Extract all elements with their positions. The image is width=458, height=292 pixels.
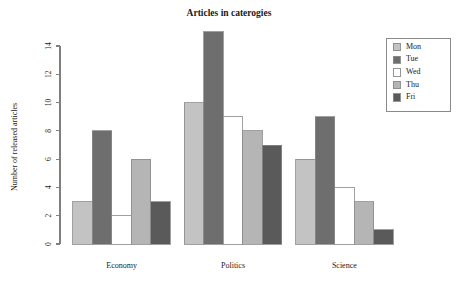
x-axis-label-science: Science	[332, 261, 357, 270]
y-axis-tick-label: 10	[44, 99, 53, 107]
x-axis-label-economy: Economy	[106, 261, 137, 270]
legend-swatch-thu	[393, 81, 400, 88]
bar-economy-tue	[92, 131, 112, 244]
legend-swatch-mon	[393, 43, 400, 50]
y-axis-tick-label: 2	[44, 214, 53, 218]
legend: MonTueWedThuFri	[386, 38, 450, 111]
y-axis-tick-label: 12	[44, 70, 53, 78]
bar-science-wed	[335, 187, 355, 244]
y-axis-tick-label: 6	[44, 157, 53, 161]
legend-label-mon: Mon	[406, 42, 421, 51]
y-axis-tick-label: 0	[44, 242, 53, 246]
chart-title: Articles in caterogies	[187, 8, 272, 18]
x-axis-category-labels: EconomyPoliticsScience	[106, 261, 357, 270]
x-axis-label-politics: Politics	[221, 261, 245, 270]
bar-economy-thu	[131, 159, 151, 244]
bars-layer	[73, 32, 393, 244]
bar-science-thu	[354, 202, 374, 244]
bar-politics-mon	[184, 103, 204, 244]
bar-science-tue	[315, 117, 335, 244]
y-axis-tick-label: 8	[44, 129, 53, 133]
y-axis-tick-label: 14	[44, 42, 53, 50]
chart-canvas: Articles in caterogies Number of release…	[0, 0, 458, 292]
legend-swatch-tue	[393, 56, 400, 63]
legend-label-tue: Tue	[406, 54, 419, 63]
legend-label-fri: Fri	[406, 92, 416, 101]
y-axis-tick-label: 4	[44, 185, 53, 189]
bar-chart-figure: Articles in caterogies Number of release…	[0, 0, 458, 292]
bar-science-fri	[374, 230, 394, 244]
bar-politics-thu	[243, 131, 263, 244]
bar-economy-mon	[73, 202, 93, 244]
y-axis: 02468101214	[44, 42, 60, 246]
bar-politics-fri	[262, 145, 282, 244]
y-axis-label: Number of released articles	[10, 103, 19, 191]
legend-swatch-wed	[393, 69, 400, 76]
bar-science-mon	[296, 159, 316, 244]
bar-economy-wed	[112, 216, 132, 244]
legend-swatch-fri	[393, 94, 400, 101]
bar-politics-tue	[204, 32, 224, 244]
bar-politics-wed	[223, 117, 243, 244]
legend-label-wed: Wed	[406, 67, 420, 76]
bar-economy-fri	[151, 202, 171, 244]
legend-label-thu: Thu	[406, 80, 419, 89]
